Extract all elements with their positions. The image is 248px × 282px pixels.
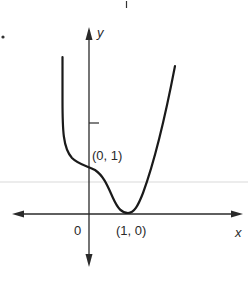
y-axis <box>86 27 100 267</box>
graph-canvas <box>0 0 248 282</box>
function-curve <box>63 57 176 213</box>
point-label-1-0: (1, 0) <box>116 224 146 237</box>
function-graph: y x 0 (0, 1) (1, 0) <box>0 0 248 282</box>
point-label-0-1: (0, 1) <box>92 149 122 162</box>
x-axis-label: x <box>235 226 242 239</box>
y-axis-down-arrow-icon <box>86 254 93 267</box>
y-axis-label: y <box>97 26 104 39</box>
stray-dot <box>1 35 4 38</box>
origin-label: 0 <box>74 224 81 237</box>
y-axis-up-arrow-icon <box>86 27 93 40</box>
x-axis-right-arrow-icon <box>231 211 243 218</box>
x-axis-left-arrow-icon <box>12 211 24 218</box>
